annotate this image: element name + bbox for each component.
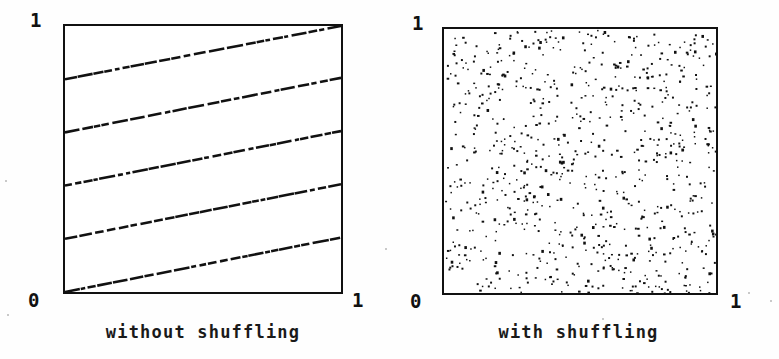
scatter-point [486, 73, 489, 75]
scatter-point [601, 64, 603, 66]
scatter-point [513, 60, 514, 61]
scatter-point [592, 95, 593, 96]
scatter-point [514, 191, 516, 193]
scatter-point [639, 179, 640, 180]
scatter-point [651, 76, 652, 77]
scatter-point [665, 73, 667, 75]
scatter-point [618, 270, 619, 271]
scatter-point [558, 144, 559, 145]
scatter-point [549, 206, 550, 207]
scatter-point [526, 184, 528, 186]
dashed-line-segment [261, 92, 271, 94]
dashed-line-segment [224, 153, 233, 155]
scatter-point [561, 162, 564, 165]
scatter-point [584, 49, 586, 51]
scatter-point [595, 224, 596, 225]
scatter-point [621, 87, 623, 89]
scatter-point [591, 44, 592, 45]
scatter-point [458, 254, 460, 255]
scatter-point [556, 116, 558, 118]
scatter-point [474, 247, 476, 249]
scatter-point [486, 278, 488, 279]
scatter-point [482, 191, 485, 194]
scatter-point [561, 291, 562, 292]
scatter-point [665, 281, 667, 283]
scatter-point [673, 189, 676, 191]
scatter-point [695, 143, 696, 144]
scatter-point [710, 86, 712, 87]
scan-speck [385, 248, 387, 250]
scatter-point [532, 73, 533, 74]
scatter-point [678, 104, 680, 105]
scatter-point [578, 291, 581, 293]
scatter-point [657, 206, 658, 207]
dashed-line-segment [300, 138, 308, 140]
scatter-point [688, 292, 690, 293]
scatter-point [651, 106, 653, 108]
scatter-point [548, 101, 550, 103]
scatter-point [638, 201, 640, 203]
scatter-point [464, 254, 467, 256]
scatter-point [530, 137, 532, 139]
scatter-point [690, 49, 691, 50]
scatter-point [698, 246, 699, 247]
scatter-point [483, 259, 484, 260]
scatter-point [709, 131, 712, 133]
scatter-point [580, 140, 582, 142]
scatter-point [521, 132, 523, 134]
scatter-point [514, 212, 516, 213]
scatter-point [662, 101, 663, 102]
scan-speck [5, 180, 7, 182]
dashed-line-segment [112, 120, 127, 123]
scatter-point [643, 145, 644, 146]
scatter-point [707, 143, 710, 145]
x-axis-max-label: 1 [730, 292, 741, 311]
scatter-point [665, 156, 667, 158]
scatter-point [669, 252, 671, 254]
scatter-point [528, 46, 529, 47]
scatter-point [535, 166, 537, 168]
dashed-line-segment [79, 233, 91, 235]
scatter-point [540, 107, 542, 108]
scatter-point [460, 209, 462, 211]
dashed-line-segment [65, 236, 77, 238]
scatter-point [517, 32, 519, 33]
scatter-point [523, 186, 525, 188]
dashed-line-segment [154, 219, 163, 221]
scatter-point [635, 90, 636, 91]
scatter-point [713, 170, 715, 171]
dashed-line-segment [188, 105, 204, 108]
scatter-point [479, 95, 481, 97]
scatter-point [615, 89, 617, 91]
scatter-point [638, 108, 640, 110]
dashed-line-segment [270, 144, 276, 145]
scatter-point [474, 204, 476, 206]
scatter-point [715, 151, 716, 153]
scatter-point [535, 155, 538, 157]
scatter-point [603, 253, 604, 254]
scatter-point [560, 176, 561, 177]
scatter-point [478, 213, 479, 214]
scatter-point [452, 216, 455, 219]
scatter-point [627, 60, 630, 63]
scan-speck [748, 292, 750, 294]
scatter-point [637, 253, 638, 254]
scatter-point [665, 87, 666, 88]
dashed-line-segment [132, 169, 147, 172]
scatter-point [653, 88, 655, 89]
scatter-point [543, 144, 545, 146]
scatter-point [656, 212, 658, 213]
scatter-point [647, 227, 648, 228]
dashed-line-segment [295, 139, 299, 140]
scatter-point [700, 182, 702, 184]
scatter-point [524, 200, 525, 201]
dashed-line-segment [75, 182, 81, 183]
scatter-point [476, 124, 478, 126]
scatter-point [670, 132, 671, 133]
dashed-line-segment [165, 112, 170, 113]
scatter-point [708, 92, 710, 94]
scatter-point [557, 200, 559, 201]
scatter-point [640, 218, 642, 220]
scatter-point [525, 125, 527, 127]
scatter-point [496, 231, 497, 232]
